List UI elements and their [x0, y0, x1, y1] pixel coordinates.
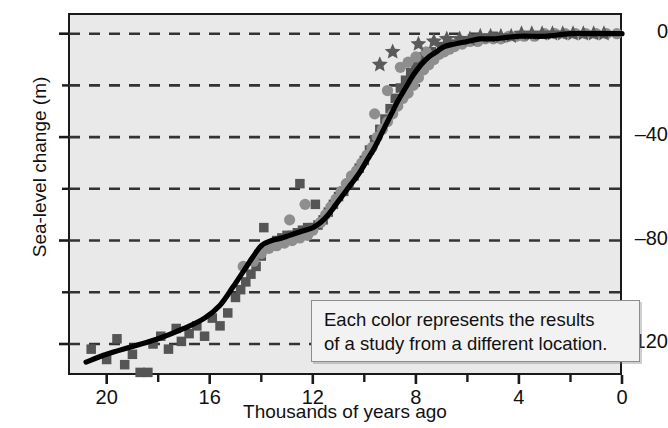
x-tick-label: 16 [190, 387, 230, 407]
chart-canvas [0, 0, 668, 428]
x-tick-label: 4 [499, 387, 539, 407]
y-tick-label: –40 [610, 124, 668, 144]
x-tick-label: 8 [396, 387, 436, 407]
y-tick-label: –80 [610, 228, 668, 248]
y-tick-label: 0 [610, 21, 668, 41]
annotation-box: Each color represents the results of a s… [311, 300, 640, 362]
x-tick-label: 20 [87, 387, 127, 407]
x-tick-label: 0 [602, 387, 642, 407]
annotation-line-2: of a study from a different location. [324, 332, 629, 356]
chart-root: Sea-level change (m) Thousands of years … [0, 0, 668, 428]
x-tick-label: 12 [293, 387, 333, 407]
y-axis-label: Sea-level change (m) [29, 17, 51, 317]
annotation-line-1: Each color represents the results [324, 308, 629, 332]
